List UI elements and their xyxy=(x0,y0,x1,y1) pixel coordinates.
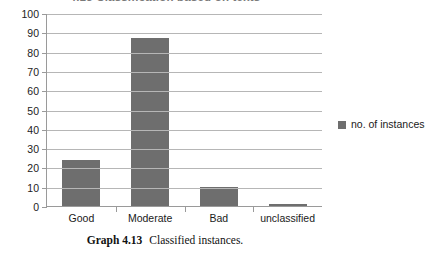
gridline xyxy=(47,130,322,131)
y-axis-tick xyxy=(42,168,47,169)
y-axis-tick xyxy=(42,72,47,73)
y-axis-tick-label: 90 xyxy=(27,28,39,38)
gridline xyxy=(47,91,322,92)
plot-area xyxy=(47,14,322,207)
x-axis-tick-label: Moderate xyxy=(128,212,172,225)
bar xyxy=(62,160,100,206)
gridline xyxy=(47,14,322,15)
y-axis-labels: 1009080706050403020100 xyxy=(0,14,43,207)
gridline xyxy=(47,168,322,169)
gridline xyxy=(47,53,322,54)
caption-text: Classified instances. xyxy=(149,234,243,246)
y-axis-tick-label: 60 xyxy=(27,86,39,96)
chart-figure: 4.13 Classification based on texts 10090… xyxy=(0,0,443,260)
y-axis-tick-label: 80 xyxy=(27,48,39,58)
y-axis-tick xyxy=(42,14,47,15)
figure-caption: Graph 4.13Classified instances. xyxy=(0,234,330,246)
chart-legend: no. of instances xyxy=(338,119,425,130)
y-axis-tick-label: 100 xyxy=(21,9,39,19)
y-axis-tick xyxy=(42,188,47,189)
y-axis-tick-label: 20 xyxy=(27,163,39,173)
gridline xyxy=(47,111,322,112)
plot-wrapper: 1009080706050403020100 GoodModerateBadun… xyxy=(0,14,330,210)
y-axis-tick xyxy=(42,149,47,150)
gridline xyxy=(47,188,322,189)
y-axis-tick xyxy=(42,53,47,54)
x-axis-tick-label: Good xyxy=(69,212,95,225)
gridline xyxy=(47,72,322,73)
legend-swatch-icon xyxy=(338,121,346,129)
y-axis-tick-label: 50 xyxy=(27,106,39,116)
y-axis-tick xyxy=(42,207,47,208)
y-axis-tick xyxy=(42,111,47,112)
y-axis-tick xyxy=(42,33,47,34)
legend-label: no. of instances xyxy=(351,119,425,130)
bar xyxy=(269,204,307,206)
bar xyxy=(131,38,169,206)
gridline xyxy=(47,33,322,34)
y-axis-tick-label: 10 xyxy=(27,183,39,193)
y-axis-tick xyxy=(42,130,47,131)
y-axis-tick-label: 0 xyxy=(33,202,39,212)
caption-label: Graph 4.13 xyxy=(87,234,143,246)
chart-title: 4.13 Classification based on texts xyxy=(0,0,330,3)
y-axis-tick xyxy=(42,91,47,92)
y-axis-tick-label: 30 xyxy=(27,144,39,154)
gridline xyxy=(47,149,322,150)
bar xyxy=(200,187,238,206)
x-axis-tick-label: Bad xyxy=(210,212,229,225)
y-axis-tick-label: 70 xyxy=(27,67,39,77)
x-axis-tick-label: unclassified xyxy=(260,212,315,225)
x-axis-labels: GoodModerateBadunclassified xyxy=(47,212,322,228)
y-axis-tick-label: 40 xyxy=(27,125,39,135)
